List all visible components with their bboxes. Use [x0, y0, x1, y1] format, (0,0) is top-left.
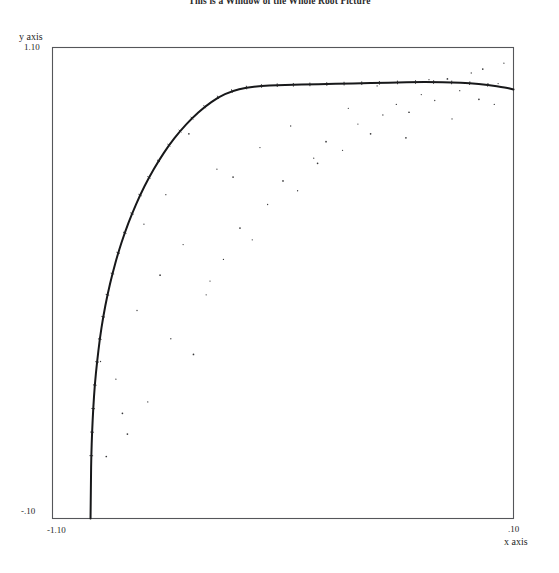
scatter-point	[122, 412, 124, 414]
curve-tick	[101, 316, 105, 317]
scatter-point	[206, 294, 207, 295]
curve-tick	[487, 83, 488, 87]
scatter-point	[127, 433, 129, 435]
scatter-point	[503, 63, 504, 64]
scatter-point	[232, 176, 234, 178]
scatter-point	[159, 274, 161, 276]
scatter-point	[382, 114, 383, 115]
scatter-point	[193, 354, 195, 356]
scatter-point	[267, 204, 268, 205]
root-curve	[91, 82, 514, 518]
scatter-points-layer	[100, 63, 505, 458]
scatter-point	[497, 83, 498, 84]
curve-tick	[106, 294, 110, 295]
scatter-point	[405, 137, 407, 139]
scatter-point	[478, 98, 480, 100]
scatter-point	[147, 401, 148, 402]
scatter-point	[434, 100, 435, 101]
scatter-point	[216, 169, 217, 170]
scatter-point	[170, 338, 171, 339]
curve-tick	[98, 339, 102, 340]
scatter-point	[259, 147, 260, 148]
root-curve-layer	[91, 82, 514, 518]
scatter-point	[313, 158, 314, 159]
scatter-point	[165, 194, 166, 195]
scatter-point	[188, 133, 190, 135]
scatter-point	[348, 108, 349, 109]
scatter-point	[282, 180, 284, 182]
scatter-point	[342, 150, 343, 151]
scatter-point	[451, 118, 452, 119]
scatter-point	[396, 104, 397, 105]
scatter-point	[325, 141, 327, 143]
scatter-point	[252, 239, 253, 240]
scatter-point	[209, 280, 210, 281]
scatter-point	[459, 90, 460, 91]
scatter-point	[494, 104, 495, 105]
scatter-point	[182, 244, 183, 245]
scatter-point	[376, 85, 377, 86]
scatter-point	[471, 72, 472, 73]
scatter-point	[223, 259, 224, 260]
scatter-point	[115, 379, 116, 380]
scatter-point	[357, 123, 358, 124]
scatter-point	[482, 68, 484, 70]
curve-tick-marks-layer	[90, 80, 489, 456]
scatter-point	[317, 162, 319, 164]
root-picture-plot: This is a Window of the Whole Root Pictu…	[0, 0, 559, 573]
scatter-point	[136, 310, 137, 311]
scatter-point	[421, 94, 422, 95]
scatter-point	[408, 111, 410, 113]
scatter-point	[143, 223, 144, 224]
scatter-point	[100, 361, 101, 362]
scatter-point	[297, 190, 298, 191]
scatter-point	[428, 79, 429, 80]
plot-canvas	[0, 0, 559, 573]
scatter-point	[105, 456, 107, 458]
scatter-point	[447, 78, 449, 80]
scatter-point	[370, 133, 372, 135]
scatter-point	[290, 125, 291, 126]
scatter-point	[239, 227, 241, 229]
plot-frame	[53, 48, 514, 519]
